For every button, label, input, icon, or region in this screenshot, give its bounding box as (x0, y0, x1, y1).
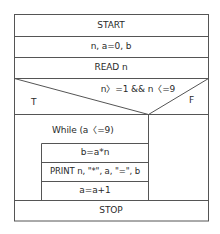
true-branch-label: T (31, 98, 36, 107)
false-branch-label: F (189, 96, 194, 105)
declare-statement: n, a=0, b (91, 42, 132, 51)
loop-statement-assign: b=a*n (81, 148, 109, 157)
stop-label: STOP (99, 206, 122, 215)
loop-statement-print: PRINT n, "*", a, "=", b (50, 167, 140, 176)
decision-condition: n〉=1 && n〈=9 (101, 85, 176, 94)
while-loop-header: While (a〈=9) (52, 126, 114, 135)
diagram-lines (0, 0, 220, 234)
loop-statement-increment: a=a+1 (79, 186, 110, 195)
start-label: START (97, 21, 124, 30)
nassi-shneiderman-diagram: START n, a=0, b READ n n〉=1 && n〈=9 T F … (0, 0, 220, 234)
read-statement: READ n (95, 63, 128, 72)
